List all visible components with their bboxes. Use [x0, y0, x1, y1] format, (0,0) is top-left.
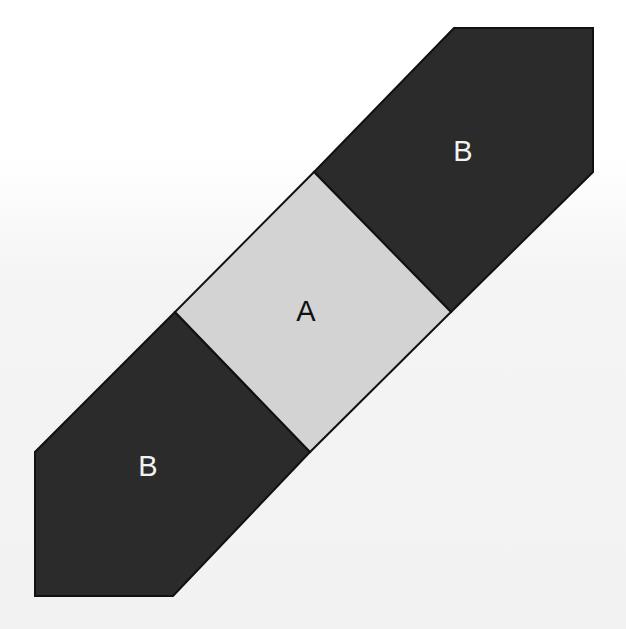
label-pentagon-b-upper: B — [453, 135, 472, 167]
tangram-strip-diagram: A B B — [0, 0, 626, 629]
label-pentagon-b-lower: B — [138, 450, 157, 482]
diagram-canvas: A B B — [0, 0, 626, 629]
label-square-a: A — [296, 295, 316, 327]
